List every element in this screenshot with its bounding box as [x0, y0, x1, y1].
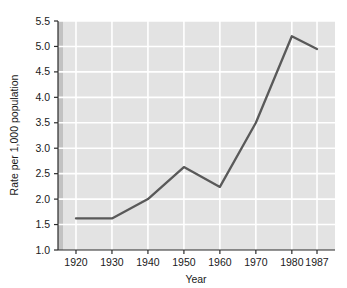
x-axis-tick-label: 1970 — [244, 256, 268, 268]
y-axis-tick-label: 4.0 — [35, 91, 50, 103]
y-axis-tick-label: 5.0 — [35, 40, 50, 52]
x-axis-tick-label: 1920 — [64, 256, 88, 268]
chart-canvas: 1.01.52.02.53.03.54.04.55.05.5 192019301… — [0, 0, 347, 288]
x-axis-tick-label: 1930 — [100, 256, 124, 268]
y-axis-tick-label: 2.0 — [35, 193, 50, 205]
x-axis-tick-label: 1980 — [280, 256, 304, 268]
x-axis-tick-label: 1940 — [136, 256, 160, 268]
y-axis-tick-label: 1.5 — [35, 218, 50, 230]
y-axis-tick-label: 1.0 — [35, 244, 50, 256]
y-axis-tick-label: 4.5 — [35, 65, 50, 77]
x-axis-tick-label: 1950 — [172, 256, 196, 268]
x-axis-title: Year — [185, 273, 207, 285]
y-axis-tick-label: 2.5 — [35, 167, 50, 179]
y-axis-title: Rate per 1,000 population — [8, 74, 20, 195]
x-axis-tick-label: 1960 — [208, 256, 232, 268]
plot-left-edge-shade — [58, 21, 63, 250]
line-chart: 1.01.52.02.53.03.54.04.55.05.5 192019301… — [0, 0, 347, 288]
x-axis-tick-label: 1987 — [305, 256, 329, 268]
y-axis-tick-label: 5.5 — [35, 15, 50, 27]
plot-area-background — [58, 21, 335, 250]
y-axis-tick-label: 3.5 — [35, 116, 50, 128]
y-axis-tick-label: 3.0 — [35, 142, 50, 154]
